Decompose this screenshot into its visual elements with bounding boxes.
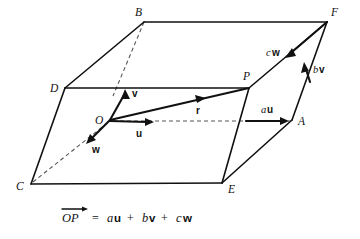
edge-D-B bbox=[65, 22, 144, 88]
vector-u-shaft bbox=[110, 121, 147, 122]
vector-r-shaft bbox=[110, 88, 249, 120]
vector-label-u: u bbox=[136, 128, 142, 139]
edge-D-C bbox=[31, 88, 65, 184]
caption-term-a-unit: u bbox=[114, 212, 121, 224]
vector-labels-group: v u w r a u b v c w bbox=[91, 47, 325, 155]
edges-group bbox=[31, 22, 327, 184]
parallelepiped-svg: B F D P O A C E v u w r a u b v c bbox=[0, 0, 360, 239]
vector-diagram-figure: B F D P O A C E v u w r a u b v c bbox=[0, 0, 360, 239]
vector-label-au-scalar: a bbox=[261, 104, 266, 115]
vector-label-r: r bbox=[196, 105, 200, 116]
vector-label-cw: c w bbox=[266, 47, 280, 58]
vector-label-w: w bbox=[91, 144, 100, 155]
edge-C-E bbox=[31, 183, 222, 184]
caption-plus-1: + bbox=[127, 211, 134, 225]
vector-r bbox=[110, 88, 249, 120]
caption-op-label: OP bbox=[62, 211, 79, 225]
vertex-label-E: E bbox=[227, 183, 235, 195]
vector-label-cw-unit: w bbox=[271, 47, 280, 58]
vector-v-arrowhead bbox=[121, 89, 130, 99]
vector-u-arrowhead bbox=[145, 118, 154, 126]
vector-label-bv-scalar: b bbox=[313, 64, 318, 75]
caption-equals: = bbox=[92, 211, 99, 225]
vertex-label-P: P bbox=[242, 70, 250, 82]
vertex-labels-group: B F D P O A C E bbox=[16, 6, 339, 195]
vector-label-bv: b v bbox=[313, 64, 325, 75]
caption-term-c-scalar: c bbox=[176, 211, 182, 225]
vertex-label-C: C bbox=[16, 180, 24, 192]
caption-term-b-unit: v bbox=[149, 212, 156, 224]
vertex-label-O: O bbox=[95, 114, 104, 126]
vector-label-au-unit: u bbox=[267, 104, 273, 115]
caption-term-c-unit: w bbox=[182, 212, 192, 224]
vertex-label-A: A bbox=[297, 115, 306, 127]
vertex-label-D: D bbox=[49, 82, 59, 94]
caption-term-b-scalar: b bbox=[142, 211, 148, 225]
edge-B-O-dashed bbox=[113, 22, 144, 96]
vector-label-v: v bbox=[132, 88, 138, 99]
caption-plus-2: + bbox=[161, 211, 168, 225]
vector-label-bv-unit: v bbox=[319, 64, 325, 75]
edge-P-E bbox=[222, 88, 249, 183]
vector-label-au: a u bbox=[261, 104, 273, 115]
edge-E-A bbox=[222, 120, 292, 183]
vertex-label-B: B bbox=[135, 6, 142, 18]
vertex-label-F: F bbox=[330, 6, 339, 18]
vector-au bbox=[246, 117, 289, 125]
vector-label-cw-scalar: c bbox=[266, 47, 271, 58]
caption-equation: OP = a u + b v + c w bbox=[62, 206, 192, 225]
caption-term-a-scalar: a bbox=[107, 211, 113, 225]
